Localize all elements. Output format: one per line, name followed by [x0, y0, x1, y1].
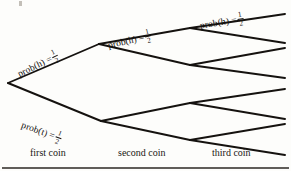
- tree-edge-t-th: [101, 103, 190, 121]
- stage-label-third-coin: third coin: [212, 147, 251, 158]
- stage-label-second-coin: second coin: [118, 147, 166, 158]
- tree-edge-th-tth: [190, 89, 285, 103]
- probability-tree-figure: prob(h) =12 prob(t) =12 prob(h) =12 prob…: [0, 0, 291, 171]
- tree-edge-th-ttt: [190, 103, 285, 119]
- tree-edge-ht-hth: [190, 48, 285, 65]
- tree-edge-root-t: [8, 83, 101, 121]
- fraction-denominator: 2: [238, 18, 245, 27]
- stage-label-first-coin: first coin: [30, 147, 66, 158]
- tree-edge-ht-htt: [190, 65, 285, 78]
- branch-label-text: prob(h) =: [199, 15, 237, 31]
- tree-edge-t-tt: [101, 121, 190, 140]
- tree-edge-tt-thh: [190, 124, 285, 140]
- tree-branches-svg: [0, 0, 291, 171]
